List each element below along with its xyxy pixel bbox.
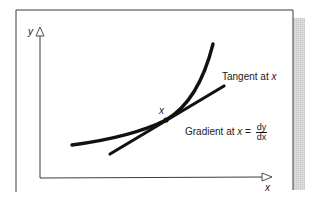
tangent-label-var: x [271,71,276,82]
frame-shadow [293,18,305,190]
tangent-label-prefix: Tangent at [222,71,271,82]
derivative-fraction: dydx [256,123,268,142]
x-axis-arrow-icon [262,173,272,181]
tangent-point [163,117,168,122]
gradient-equals: = [242,126,253,137]
frame-border [16,10,293,192]
y-axis-arrow-icon [36,27,44,36]
y-axis-label: y [28,26,33,37]
x-axis-label: x [265,182,270,193]
gradient-label: Gradient at x = dydx [185,123,267,142]
gradient-label-prefix: Gradient at [185,126,237,137]
tangent-label: Tangent at x [222,71,276,82]
derivative-denominator: dx [256,133,268,142]
x-axis [40,177,264,178]
diagram-canvas [0,0,315,201]
point-label: x [159,105,164,116]
